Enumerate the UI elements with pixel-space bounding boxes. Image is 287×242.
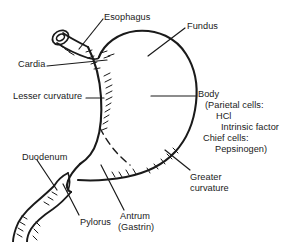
label-lesser-curvature: Lesser curvature [13, 91, 82, 102]
label-body: Body [198, 89, 219, 100]
label-body-intrinsic-factor: Intrinsic factor [221, 122, 279, 133]
label-greater-curvature-line1: Greater [190, 172, 222, 183]
label-body-chief-cells: Chief cells: [203, 133, 249, 144]
duodenal-bulb-top [54, 173, 68, 186]
label-antrum-line1: Antrum [120, 211, 150, 222]
label-greater-curvature-line2: curvature [190, 183, 229, 194]
label-duodenum: Duodenum [22, 152, 67, 163]
label-pylorus: Pylorus [80, 217, 111, 228]
label-body-parietal-cells: (Parietal cells: [205, 100, 264, 111]
stomach-outer-wall [78, 31, 197, 181]
label-cardia: Cardia [18, 59, 45, 70]
label-esophagus: Esophagus [104, 12, 150, 23]
stomach-drawing [0, 0, 287, 242]
lesser-curvature-wall [80, 47, 101, 164]
duodenum-outer-wall [27, 192, 71, 242]
antrum-divider-dashed [100, 128, 130, 165]
leader-duodenum [37, 160, 57, 190]
leader-antrum [101, 165, 124, 210]
hatching-esophagus [61, 46, 74, 55]
label-antrum-line2: (Gastrin) [118, 222, 154, 233]
esophagus-lumen-outer [50, 27, 72, 47]
hatching-lesser-curvature [102, 73, 112, 130]
label-body-pepsinogen: Pepsinogen) [215, 144, 267, 155]
leader-cardia [47, 60, 107, 66]
esophagus-lumen-inner [55, 33, 65, 43]
hatching-fundus-junction [101, 51, 114, 58]
leader-esophagus [79, 19, 103, 49]
label-body-hcl: HCl [216, 111, 231, 122]
stomach-anatomy-figure: Esophagus Fundus Cardia Lesser curvature… [0, 0, 287, 242]
duodenum-inner-wall [13, 186, 54, 242]
label-fundus: Fundus [187, 21, 218, 32]
